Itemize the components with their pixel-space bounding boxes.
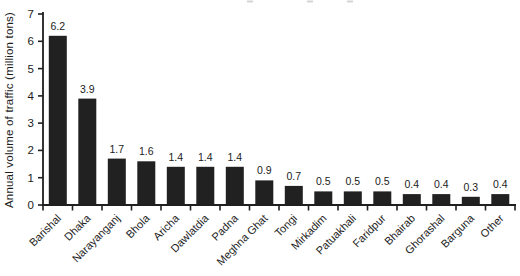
bar [314,191,332,205]
bar [167,167,185,205]
bar [344,191,362,205]
x-category-label: Tongi [272,212,299,239]
bar-value-label: 0.4 [434,178,449,190]
bar [403,194,421,205]
bar-value-label: 1.4 [227,151,242,163]
labels-group: 6.2Barishal3.9Dhaka1.7Narayanganj1.6Bhol… [27,8,508,268]
bar-value-label: 1.7 [109,143,124,155]
y-tick-label: 5 [28,63,34,75]
bar-value-label: 0.5 [375,175,390,187]
bar-value-label: 0.5 [345,175,360,187]
x-category-label: Faridpur [350,212,388,250]
bar [285,186,303,205]
bar [373,191,391,205]
bar [462,197,480,205]
x-category-label: Barishal [27,212,64,249]
bar-value-label: 0.5 [316,175,331,187]
x-category-label: Barguna [438,211,477,250]
scan-artifact-mark [307,1,313,3]
bar-chart-figure: 6.2Barishal3.9Dhaka1.7Narayanganj1.6Bhol… [0,0,520,276]
y-axis-title: Annual volume of traffic (million tons) [3,12,15,208]
scan-artifact-mark [347,1,353,3]
y-tick-label: 0 [28,199,34,211]
bar-value-label: 0.9 [257,164,272,176]
bar [226,167,244,205]
x-category-label: Bhola [123,211,152,240]
scan-artifact-mark [247,1,253,3]
y-tick-label: 7 [28,8,34,20]
bar [491,194,509,205]
bar [255,180,273,205]
x-category-label: Other [478,212,506,240]
bar-value-label: 1.4 [198,151,213,163]
bar-value-label: 0.3 [463,181,478,193]
y-tick-label: 3 [28,117,34,129]
bar [137,161,155,205]
bar [432,194,450,205]
bar [49,36,67,205]
bar-value-label: 1.6 [139,145,154,157]
bar-value-label: 0.7 [286,170,301,182]
bar-value-label: 0.4 [404,178,419,190]
bar-value-label: 1.4 [168,151,183,163]
y-tick-label: 2 [28,144,34,156]
y-tick-label: 4 [28,90,35,102]
bar-value-label: 0.4 [493,178,508,190]
y-tick-label: 1 [28,172,34,184]
bar [78,99,96,205]
bar-chart-canvas: 6.2Barishal3.9Dhaka1.7Narayanganj1.6Bhol… [0,0,520,276]
bar [196,167,214,205]
bar [108,159,126,205]
bar-value-label: 3.9 [80,83,95,95]
y-tick-label: 6 [28,35,34,47]
bar-value-label: 6.2 [50,20,65,32]
